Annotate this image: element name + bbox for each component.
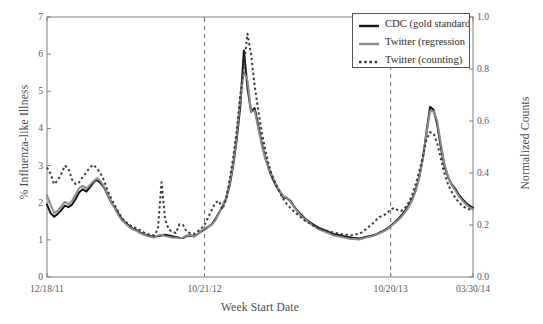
y-axis-ticks-left <box>47 17 51 277</box>
chart-figure: % Influenza-like Illness Normalized Coun… <box>0 0 543 324</box>
y-axis-label-right: Normalized Counts <box>519 18 535 268</box>
y-tick-label-right: 0.4 <box>477 167 507 178</box>
legend-item-twitter-counting: Twitter (counting) <box>353 51 470 68</box>
y-tick-label-left: 0 <box>21 271 43 282</box>
y-tick-label-right: 1.0 <box>477 11 507 22</box>
y-tick-label-left: 4 <box>21 122 43 133</box>
y-tick-label-left: 5 <box>21 85 43 96</box>
legend-swatch-solid-dark <box>358 18 380 30</box>
y-tick-label-right: 0.8 <box>477 63 507 74</box>
legend-item-cdc: CDC (gold standard) <box>353 15 470 32</box>
y-tick-label-left: 3 <box>21 160 43 171</box>
legend-item-twitter-regression: Twitter (regression <box>353 33 470 50</box>
y-tick-label-right: 0.2 <box>477 219 507 230</box>
x-tick-label: 12/18/11 <box>9 283 85 294</box>
y-tick-label-left: 2 <box>21 197 43 208</box>
legend-swatch-dotted-dark <box>358 54 380 66</box>
legend-swatch-solid-gray <box>358 36 380 48</box>
x-axis-label: Week Start Date <box>47 301 473 313</box>
y-tick-label-left: 7 <box>21 11 43 22</box>
y-tick-label-left: 6 <box>21 48 43 59</box>
y-tick-label-left: 1 <box>21 234 43 245</box>
legend-label-cdc: CDC (gold standard) <box>385 18 470 30</box>
series-line-twitter_regression <box>47 72 473 240</box>
legend-label-twitter-regression: Twitter (regression <box>385 36 465 48</box>
x-tick-label: 10/21/12 <box>167 283 243 294</box>
chart-legend: CDC (gold standard) Twitter (regression … <box>352 13 470 68</box>
y-tick-label-right: 0.0 <box>477 271 507 282</box>
x-tick-label: 03/30/14 <box>435 283 511 294</box>
legend-label-twitter-counting: Twitter (counting) <box>385 54 462 66</box>
x-axis-ticks <box>47 273 473 277</box>
x-tick-label: 10/20/13 <box>353 283 429 294</box>
y-tick-label-right: 0.6 <box>477 115 507 126</box>
series-line-cdc <box>47 50 473 238</box>
